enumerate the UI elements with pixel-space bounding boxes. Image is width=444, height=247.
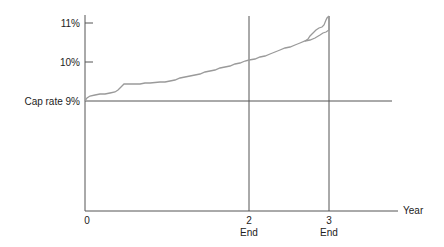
y-label-10: 10% (60, 57, 80, 68)
x-label-3-end: End (320, 227, 338, 238)
x-label-2: 2 (246, 215, 252, 226)
x-label-2-end: End (240, 227, 258, 238)
x-axis-title: Year (403, 205, 424, 216)
chart: 11% 10% Cap rate 9% 0 2 End 3 End Year (0, 0, 444, 247)
y-label-11: 11% (61, 18, 80, 29)
x-label-0: 0 (84, 215, 90, 226)
cap-rate-curve (85, 16, 329, 101)
x-label-3: 3 (326, 215, 332, 226)
y-label-cap-rate: Cap rate 9% (24, 96, 80, 107)
